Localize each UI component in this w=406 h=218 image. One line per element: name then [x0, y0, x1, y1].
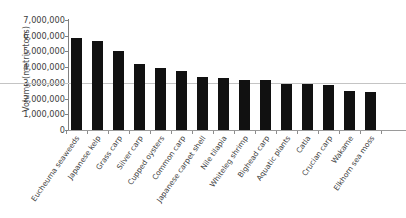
y-tick-label: 6,000,000: [5, 31, 65, 41]
y-tick-label: 1,000,000: [5, 109, 65, 119]
x-tick-mark: [87, 131, 88, 134]
x-tick-mark: [339, 131, 340, 134]
y-tick-label: 2,000,000: [5, 94, 65, 104]
y-tick-label: 5,000,000: [5, 46, 65, 56]
x-tick-mark: [381, 131, 382, 134]
bar: [71, 38, 82, 130]
bar: [302, 84, 313, 130]
x-tick-mark: [150, 131, 151, 134]
bar-chart: Volume (metric tons) 7,000,0006,000,0005…: [0, 0, 406, 218]
bar: [344, 91, 355, 130]
bar: [281, 84, 292, 130]
y-tick-label: 0: [5, 125, 65, 135]
bar: [92, 41, 103, 130]
x-axis-line: [68, 130, 406, 131]
x-tick-mark: [192, 131, 193, 134]
plot-area: [68, 20, 390, 130]
bar: [323, 85, 334, 130]
x-tick-mark: [360, 131, 361, 134]
y-tick-label: 4,000,000: [5, 62, 65, 72]
y-tick-label: 7,000,000: [5, 15, 65, 25]
x-tick-mark: [171, 131, 172, 134]
x-tick-mark: [318, 131, 319, 134]
bar: [239, 80, 250, 130]
bar: [113, 51, 124, 130]
x-tick-mark: [66, 131, 67, 134]
bar: [134, 64, 145, 130]
bar: [197, 77, 208, 130]
x-tick-mark: [255, 131, 256, 134]
bar: [218, 78, 229, 130]
x-tick-mark: [108, 131, 109, 134]
x-tick-mark: [297, 131, 298, 134]
bar: [176, 71, 187, 130]
bar: [260, 80, 271, 130]
x-tick-mark: [129, 131, 130, 134]
x-tick-mark: [234, 131, 235, 134]
x-tick-label: Catla: [295, 134, 313, 155]
x-tick-mark: [213, 131, 214, 134]
x-tick-mark: [276, 131, 277, 134]
bar: [365, 92, 376, 130]
bar: [155, 68, 166, 130]
